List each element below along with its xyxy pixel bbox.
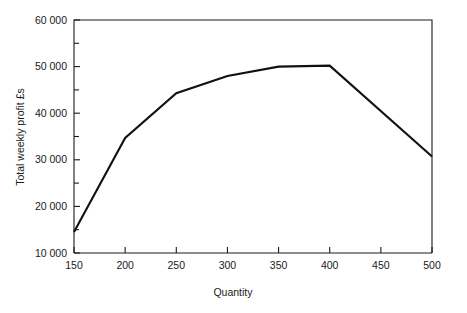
profit-line-series	[74, 66, 432, 232]
chart-figure: 10 00020 00030 00040 00050 00060 000 150…	[0, 0, 467, 313]
y-axis-title: Total weekly profit £s	[14, 88, 26, 185]
y-tick-label: 20 000	[35, 200, 67, 212]
y-tick-label: 40 000	[35, 107, 67, 119]
x-axis-tick-labels: 150200250300350400450500	[65, 259, 441, 271]
x-tick-label: 150	[65, 259, 83, 271]
x-tick-label: 450	[372, 259, 390, 271]
x-tick-label: 350	[270, 259, 288, 271]
x-tick-label: 200	[116, 259, 134, 271]
y-axis-tick-labels: 10 00020 00030 00040 00050 00060 000	[35, 14, 67, 259]
x-axis-title: Quantity	[213, 286, 253, 298]
y-axis-ticks	[74, 20, 80, 253]
y-tick-label: 30 000	[35, 153, 67, 165]
y-tick-label: 60 000	[35, 14, 67, 26]
x-tick-label: 300	[219, 259, 237, 271]
y-tick-label: 10 000	[35, 247, 67, 259]
x-tick-label: 250	[168, 259, 186, 271]
y-tick-label: 50 000	[35, 60, 67, 72]
x-tick-label: 500	[423, 259, 441, 271]
profit-quantity-line-chart: 10 00020 00030 00040 00050 00060 000 150…	[0, 0, 467, 313]
x-axis-ticks	[74, 247, 432, 253]
x-tick-label: 400	[321, 259, 339, 271]
